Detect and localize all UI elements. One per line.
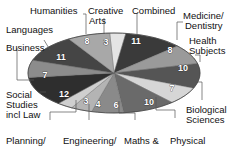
value-bio: 7 (169, 83, 174, 93)
value-planning: 3 (83, 96, 88, 106)
value-combined: 11 (131, 36, 141, 46)
label-business: Business (6, 43, 45, 53)
label-physical: Physical (170, 136, 205, 146)
value-engineering: 4 (95, 99, 100, 109)
value-social: 12 (59, 89, 69, 99)
value-creative-arts: 3 (103, 37, 108, 47)
value-medicine: 8 (167, 45, 172, 55)
value-humanities: 8 (84, 36, 89, 46)
label-health-2: Subjects (189, 46, 225, 56)
label-planning: Planning/ (6, 136, 46, 146)
value-physical: 10 (144, 97, 154, 107)
label-creative-arts-2: Arts (89, 16, 106, 26)
label-social-3: incl Law (6, 110, 40, 120)
value-maths: 6 (113, 100, 118, 110)
label-combined: Combined (132, 6, 175, 16)
value-business: 7 (42, 70, 47, 80)
value-languages: 11 (56, 52, 66, 62)
label-maths: Maths & (124, 136, 159, 146)
value-health: 10 (178, 63, 188, 73)
label-engineering: Engineering/ (63, 136, 116, 146)
label-languages: Languages (6, 25, 53, 35)
label-bio-2: Sciences (186, 115, 225, 125)
pie-chart: 3 11 8 10 7 10 6 4 3 12 7 11 8 Humanitie… (0, 0, 228, 147)
label-medicine-2: Dentistry (185, 21, 222, 31)
label-humanities: Humanities (30, 6, 78, 16)
